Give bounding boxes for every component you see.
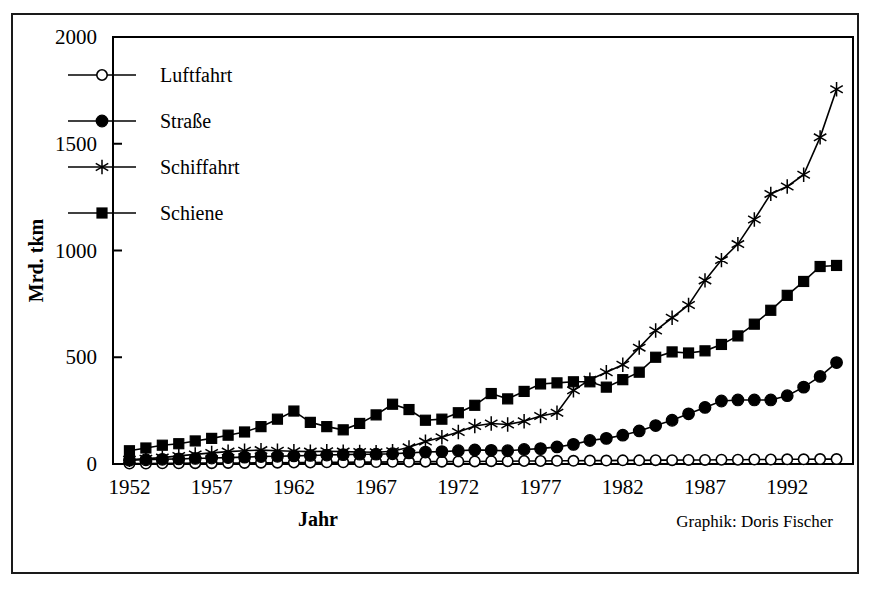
data-point [469, 444, 481, 456]
data-point [634, 367, 644, 377]
data-point [782, 454, 792, 464]
x-tick-label: 1972 [437, 475, 479, 499]
legend-marker [96, 115, 108, 127]
data-point [683, 408, 695, 420]
data-point [831, 454, 841, 464]
data-point [470, 456, 480, 466]
data-point [830, 82, 842, 96]
data-point [732, 394, 744, 406]
legend-label: Straße [160, 110, 211, 132]
data-point [420, 415, 430, 425]
data-point [667, 347, 677, 357]
data-point [551, 441, 563, 453]
x-tick-label: 1952 [108, 475, 150, 499]
data-point [601, 382, 611, 392]
data-point [765, 394, 777, 406]
data-point [568, 456, 578, 466]
data-point [585, 377, 595, 387]
data-point [535, 443, 547, 455]
data-point [798, 381, 810, 393]
data-point [781, 390, 793, 402]
y-tick-label: 0 [87, 452, 98, 476]
data-point [716, 455, 726, 465]
data-point [437, 414, 447, 424]
legend-label: Luftfahrt [160, 64, 233, 86]
data-point [404, 405, 414, 415]
data-point [371, 410, 381, 420]
y-tick-label: 1000 [55, 239, 97, 263]
data-point [815, 454, 825, 464]
data-point [453, 445, 465, 457]
data-point [584, 435, 596, 447]
data-point [832, 260, 842, 270]
legend-label: Schiffahrt [160, 156, 240, 178]
data-point [700, 455, 710, 465]
data-point [519, 386, 529, 396]
legend-marker [97, 208, 107, 218]
data-point [683, 455, 693, 465]
data-point [305, 417, 315, 427]
data-point [748, 212, 760, 226]
data-point [600, 365, 612, 379]
x-tick-label: 1967 [355, 475, 397, 499]
data-point [355, 418, 365, 428]
data-point [552, 378, 562, 388]
data-point [699, 402, 711, 414]
data-point [749, 319, 759, 329]
x-tick-label: 1987 [684, 475, 726, 499]
x-tick-label: 1992 [766, 475, 808, 499]
data-point [568, 439, 580, 451]
data-point [535, 456, 545, 466]
data-point [124, 446, 134, 456]
data-point [486, 456, 496, 466]
data-point [486, 389, 496, 399]
data-point [207, 433, 217, 443]
data-point [502, 456, 512, 466]
data-point [716, 395, 728, 407]
series-line [129, 265, 836, 450]
series-line [129, 89, 836, 459]
data-point [518, 444, 530, 456]
data-point [815, 262, 825, 272]
data-point [814, 371, 826, 383]
data-point [766, 305, 776, 315]
data-point [618, 375, 628, 385]
data-point [781, 179, 793, 193]
data-point [700, 346, 710, 356]
data-point [503, 394, 513, 404]
y-tick-label: 1500 [55, 132, 97, 156]
data-point [256, 422, 266, 432]
data-point [289, 406, 299, 416]
credit-label: Graphik: Doris Fischer [676, 512, 833, 531]
figure-page: 0500100015002000195219571962196719721977… [0, 0, 878, 599]
data-point [716, 339, 726, 349]
data-point [650, 455, 660, 465]
data-point [667, 455, 677, 465]
series-line [129, 459, 836, 463]
data-point [634, 455, 644, 465]
data-point [798, 454, 808, 464]
data-point [141, 443, 151, 453]
data-point [453, 408, 463, 418]
data-point [452, 425, 464, 439]
legend-label: Schiene [160, 202, 223, 224]
data-point [831, 357, 843, 369]
data-point [782, 290, 792, 300]
data-point [518, 414, 530, 428]
figure-outer-frame: 0500100015002000195219571962196719721977… [11, 13, 859, 574]
data-point [733, 331, 743, 341]
data-point [618, 455, 628, 465]
data-point [650, 420, 662, 432]
data-point [682, 298, 694, 312]
data-point [502, 445, 514, 457]
data-point [536, 379, 546, 389]
data-point [388, 399, 398, 409]
data-point [174, 439, 184, 449]
x-tick-label: 1977 [520, 475, 562, 499]
data-point [470, 400, 480, 410]
line-chart: 0500100015002000195219571962196719721977… [13, 15, 857, 572]
data-point [766, 454, 776, 464]
data-point [453, 456, 463, 466]
data-point [601, 433, 613, 445]
series-schiffahrt [123, 82, 843, 467]
